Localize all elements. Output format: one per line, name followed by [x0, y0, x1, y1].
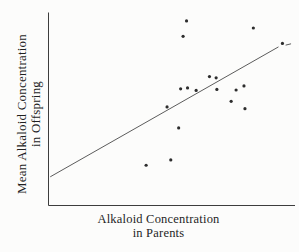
x-axis-label: Alkaloid Concentration in Parents — [35, 213, 282, 240]
data-point — [195, 89, 198, 92]
x-axis-label-line1: Alkaloid Concentration — [35, 213, 282, 227]
data-point — [145, 164, 148, 167]
scatter-figure: Mean Alkaloid Concentration in Offspring… — [0, 0, 299, 252]
data-point — [243, 107, 246, 110]
data-point — [169, 158, 172, 161]
data-point — [234, 88, 237, 91]
data-point — [185, 19, 188, 22]
data-point — [281, 42, 284, 45]
data-point — [177, 126, 180, 129]
x-axis-label-line2: in Parents — [35, 227, 282, 241]
data-point — [208, 75, 211, 78]
data-point — [215, 76, 218, 79]
data-point — [165, 105, 168, 108]
regression-line — [50, 47, 278, 177]
data-point — [252, 26, 255, 29]
data-point — [181, 35, 184, 38]
data-point — [179, 87, 182, 90]
data-point — [242, 84, 245, 87]
data-point — [230, 100, 233, 103]
regression-line-dash — [286, 44, 291, 45]
data-point — [186, 86, 189, 89]
axes — [49, 13, 296, 206]
data-point — [215, 88, 218, 91]
